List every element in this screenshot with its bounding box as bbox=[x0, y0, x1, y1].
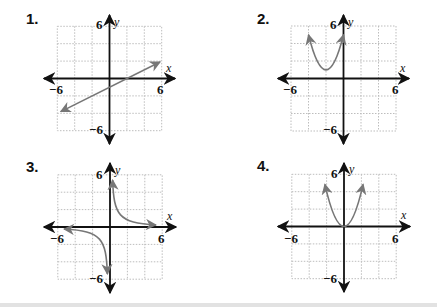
graph-1-xmin-tick: −6 bbox=[49, 82, 63, 97]
graph-4-ymax-tick: 6 bbox=[331, 166, 338, 181]
graph-2-xmax-tick: 6 bbox=[392, 82, 399, 97]
bottom-border-bar bbox=[0, 303, 437, 307]
graph-3: 6 −6 −6 6 y x bbox=[44, 163, 176, 293]
graph-1: 6 −6 −6 6 y x bbox=[44, 15, 175, 144]
graph-2: 6 −6 −6 6 y x bbox=[278, 15, 409, 144]
graph-4: 6 −6 −6 6 y x bbox=[278, 162, 410, 292]
graph-2-xmin-tick: −6 bbox=[283, 82, 297, 97]
graph-2-x-label: x bbox=[399, 61, 406, 75]
graph-3-curve-right bbox=[113, 180, 156, 225]
graph-1-ymax-tick: 6 bbox=[96, 17, 103, 32]
graph-3-y-label: y bbox=[114, 163, 121, 177]
graph-1-y-label: y bbox=[113, 15, 120, 29]
graph-3-ymax-tick: 6 bbox=[96, 167, 103, 182]
graph-1-x-label: x bbox=[165, 61, 172, 75]
graph-2-ymin-tick: −6 bbox=[323, 122, 337, 137]
graph-1-xmax-tick: 6 bbox=[157, 82, 164, 97]
graph-4-xmin-tick: −6 bbox=[284, 231, 298, 246]
graph-2-y-label: y bbox=[347, 15, 354, 29]
graph-3-x-label: x bbox=[166, 209, 173, 223]
graph-3-xmin-tick: −6 bbox=[50, 231, 64, 246]
graph-4-y-label: y bbox=[348, 162, 355, 176]
graph-4-xmax-tick: 6 bbox=[392, 231, 399, 246]
graph-3-xmax-tick: 6 bbox=[158, 231, 165, 246]
graph-1-ymin-tick: −6 bbox=[89, 122, 103, 137]
graph-3-ymin-tick: −6 bbox=[89, 271, 103, 286]
graph-3-curve-left bbox=[64, 229, 107, 274]
graph-4-ymin-tick: −6 bbox=[323, 271, 337, 286]
graph-4-x-label: x bbox=[400, 208, 407, 222]
graphs-canvas: 6 −6 −6 6 y x 6 −6 −6 6 y x bbox=[0, 0, 437, 307]
graph-2-ymax-tick: 6 bbox=[330, 17, 337, 32]
graph-2-curve bbox=[309, 35, 344, 70]
